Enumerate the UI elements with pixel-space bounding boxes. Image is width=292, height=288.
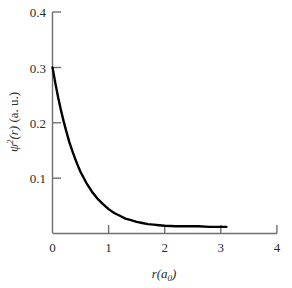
x-tick-label-1: 1: [105, 240, 112, 255]
y-axis-of-r: (r): [6, 126, 21, 140]
x-tick-label-4: 4: [274, 240, 281, 255]
x-tick-label-3: 3: [218, 240, 225, 255]
y-tick-label-0.4: 0.4: [30, 5, 47, 20]
y-axis-units: (a. u.): [6, 92, 21, 123]
y-tick-label-0.3: 0.3: [30, 61, 46, 76]
x-axis-title: r(a0): [152, 266, 177, 283]
chart-container: 0.4 0.3 0.2 0.1 0 1 2 3 4 ψ2(r) (a. u.) …: [0, 0, 292, 288]
y-tick-label-0.2: 0.2: [30, 116, 46, 131]
y-tick-label-0.1: 0.1: [30, 171, 46, 186]
x-axis-paren-close: ): [171, 266, 176, 281]
x-tick-label-2: 2: [161, 240, 168, 255]
x-tick-label-0: 0: [49, 240, 56, 255]
psi-squared-decay-plot: 0.4 0.3 0.2 0.1 0 1 2 3 4 ψ2(r) (a. u.) …: [0, 0, 292, 288]
plot-background: [0, 0, 292, 288]
